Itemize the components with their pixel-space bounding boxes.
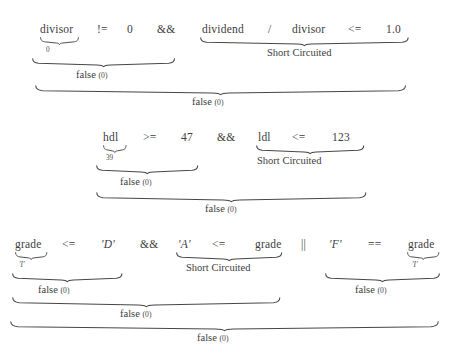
token-gte-2: >=: [143, 132, 156, 144]
brace-label-short-circuited-2: Short Circuited: [257, 156, 321, 167]
underbrace-grade-right-3: [407, 252, 440, 260]
token-lte-3a: <=: [62, 239, 75, 251]
brace-label-false-1b: false (0): [192, 97, 224, 109]
underbrace-grade-left-3: [15, 252, 48, 260]
token-dividend-1: dividend: [202, 24, 244, 36]
underbrace-right-operand-1: [200, 37, 410, 46]
underbrace-hdl-2: [103, 145, 127, 153]
underbrace-right-operand-2: [256, 145, 366, 154]
annotation-grade-left-value-3: 'I': [19, 262, 24, 269]
brace-label-short-circuited-3: Short Circuited: [186, 263, 250, 274]
underbrace-full-3: [10, 321, 443, 331]
underbrace-operand-3b: [176, 252, 284, 261]
underbrace-left-operand-2: [96, 165, 200, 174]
token-divisor-1: divisor: [40, 24, 73, 36]
token-and-1: &&: [157, 24, 175, 36]
token-and-3: &&: [140, 239, 158, 251]
annotation-divisor-value-1: 0: [46, 47, 50, 54]
token-and-2: &&: [217, 132, 235, 144]
underbrace-operand-3a: [12, 273, 124, 282]
brace-label-false-3c: false (0): [355, 285, 387, 297]
figure-canvas: divisor != 0 && dividend / divisor <= 1.…: [0, 0, 464, 356]
token-123-2: 123: [332, 132, 350, 144]
annotation-hdl-value-2: 39: [106, 155, 113, 162]
token-char-d-3: 'D': [101, 239, 115, 251]
brace-label-false-2a: false (0): [120, 177, 152, 189]
token-hdl-2: hdl: [103, 132, 118, 144]
token-or-3: ||: [301, 239, 306, 251]
token-char-f-3: 'F': [329, 239, 342, 251]
underbrace-and-group-3: [12, 297, 285, 307]
underbrace-operand-3c: [325, 273, 442, 282]
token-ldl-2: ldl: [258, 132, 271, 144]
token-grade-left-3: grade: [15, 239, 42, 251]
underbrace-full-1: [35, 85, 409, 95]
token-lte-2: <=: [292, 132, 305, 144]
brace-label-false-2b: false (0): [205, 204, 237, 216]
token-lte-1: <=: [348, 24, 361, 36]
token-47-2: 47: [181, 132, 193, 144]
underbrace-left-operand-1: [32, 58, 176, 67]
token-char-a-3: 'A': [178, 239, 191, 251]
token-onepointzero-1: 1.0: [386, 24, 401, 36]
underbrace-divisor-1: [40, 37, 79, 45]
token-grade-mid-3: grade: [255, 239, 282, 251]
underbrace-full-2: [96, 192, 370, 202]
brace-label-short-circuited-1: Short Circuited: [267, 48, 331, 59]
annotation-grade-right-value-3: 'I': [412, 262, 417, 269]
brace-label-false-3e: false (0): [197, 333, 229, 345]
token-grade-right-3: grade: [408, 239, 435, 251]
brace-label-false-1a: false (0): [76, 70, 108, 82]
token-neq-1: !=: [97, 24, 108, 36]
brace-label-false-3d: false (0): [120, 309, 152, 321]
token-lte-3b: <=: [212, 239, 225, 251]
token-divisor-2: divisor: [292, 24, 325, 36]
token-zero-1: 0: [127, 24, 133, 36]
brace-label-false-3a: false (0): [38, 285, 70, 297]
token-divide-1: /: [268, 24, 271, 36]
token-eq-3: ==: [368, 239, 381, 251]
